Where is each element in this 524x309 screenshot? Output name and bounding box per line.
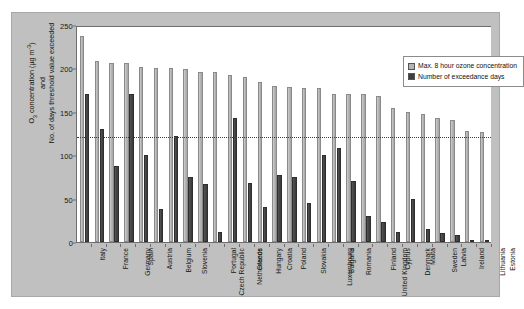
x-axis-tick-label: Belgium — [185, 248, 192, 273]
bar-max-ozone — [332, 94, 336, 242]
x-axis-tick-label: Slovenia — [201, 248, 208, 274]
bar-max-ozone — [213, 72, 217, 242]
bar-exceedance-days — [144, 155, 148, 242]
y-axis-tick-label: 150 — [60, 108, 73, 117]
bar-exceedance-days — [351, 181, 355, 242]
x-axis-tick-label: Lithuania — [499, 248, 506, 276]
x-axis-tick-mark — [491, 244, 492, 247]
bar-exceedance-days — [85, 94, 89, 242]
x-axis-tick-label: Latvia — [460, 248, 467, 266]
bar-max-ozone — [376, 96, 380, 242]
bar-exceedance-days — [129, 94, 133, 242]
x-axis-tick-mark — [195, 244, 196, 247]
bar-group — [359, 27, 374, 242]
bar-max-ozone — [139, 67, 143, 242]
bar-group — [240, 27, 255, 242]
bar-max-ozone — [317, 88, 321, 242]
bar-max-ozone — [272, 86, 276, 242]
x-axis: ItalyFranceGermanySpainAustriaBelgiumSlo… — [76, 245, 491, 297]
bar-group — [373, 27, 388, 242]
x-axis-tick-mark — [298, 244, 299, 247]
x-axis-tick-mark — [313, 244, 314, 247]
x-axis-tick-mark — [239, 244, 240, 247]
bar-max-ozone — [391, 108, 395, 242]
x-axis-tick-mark — [180, 244, 181, 247]
bar-group — [225, 27, 240, 242]
x-axis-tick-mark — [150, 244, 151, 247]
bar-group — [299, 27, 314, 242]
legend-item-max-ozone: Max. 8 hour ozone concentration — [408, 61, 517, 72]
x-axis-tick-mark — [358, 244, 359, 247]
bar-exceedance-days — [188, 177, 192, 242]
bar-exceedance-days — [337, 148, 341, 242]
bar-exceedance-days — [440, 233, 444, 242]
x-axis-tick-mark — [120, 244, 121, 247]
bar-max-ozone — [302, 88, 306, 243]
x-axis-tick-mark — [91, 244, 92, 247]
legend-swatch-dark-icon — [408, 73, 415, 80]
x-axis-tick-label: Portugal — [230, 248, 237, 273]
bar-exceedance-days — [381, 222, 385, 242]
bar-max-ozone — [480, 132, 484, 242]
y-axis: 050100150200250 — [12, 13, 76, 244]
bar-group — [285, 27, 300, 242]
bar-max-ozone — [183, 69, 187, 242]
x-axis-tick-mark — [328, 244, 329, 247]
x-axis-tick-label: Cyprus — [404, 248, 411, 270]
x-axis-tick-mark — [343, 244, 344, 247]
x-axis-tick-label: France — [122, 248, 129, 269]
x-axis-tick-label: Romania — [365, 248, 372, 275]
bar-max-ozone — [361, 94, 365, 242]
bar-exceedance-days — [366, 216, 370, 242]
bar-max-ozone — [154, 68, 158, 242]
x-axis-tick-label: Slovakia — [319, 248, 326, 274]
x-axis-tick-label: Bulgaria — [348, 248, 355, 273]
bar-exceedance-days — [485, 240, 489, 242]
x-axis-tick-mark — [417, 244, 418, 247]
x-axis-tick-label: Malta — [429, 248, 436, 265]
bar-group — [77, 27, 92, 242]
bar-max-ozone — [198, 72, 202, 242]
bar-max-ozone — [450, 120, 454, 242]
x-axis-tick-mark — [476, 244, 477, 247]
bar-exceedance-days — [114, 166, 118, 242]
bar-max-ozone — [80, 36, 84, 242]
bar-group — [166, 27, 181, 242]
bar-max-ozone — [109, 63, 113, 242]
bar-exceedance-days — [292, 177, 296, 242]
legend-swatch-light-icon — [408, 63, 415, 70]
bar-max-ozone — [465, 131, 469, 242]
bar-exceedance-days — [203, 184, 207, 242]
x-axis-tick-label: Finland — [390, 248, 397, 270]
x-axis-tick-label: Croatia — [286, 248, 293, 270]
bar-exceedance-days — [263, 207, 267, 242]
bar-exceedance-days — [174, 136, 178, 242]
bar-exceedance-days — [396, 232, 400, 242]
y-axis-tick-label: 200 — [60, 65, 73, 74]
bar-exceedance-days — [218, 232, 222, 242]
legend-label-max-ozone: Max. 8 hour ozone concentration — [418, 61, 517, 72]
x-axis-tick-label: Estonia — [509, 248, 516, 271]
legend-label-exceedance-days: Number of exceedance days — [418, 72, 505, 83]
bar-max-ozone — [95, 61, 99, 242]
bar-max-ozone — [287, 87, 291, 242]
x-axis-tick-label: Ireland — [477, 248, 484, 269]
bar-max-ozone — [243, 77, 247, 242]
x-axis-tick-mark — [165, 244, 166, 247]
bar-max-ozone — [124, 63, 128, 242]
bar-max-ozone — [421, 114, 425, 242]
bar-max-ozone — [258, 82, 262, 242]
bar-group — [151, 27, 166, 242]
x-axis-tick-label: Italy — [99, 248, 106, 261]
x-axis-tick-mark — [461, 244, 462, 247]
x-axis-tick-label: Greece — [256, 248, 263, 270]
bar-group — [388, 27, 403, 242]
x-axis-tick-label: Czech Republic — [237, 248, 244, 296]
x-axis-tick-label: Sweden — [451, 248, 458, 272]
bar-group — [181, 27, 196, 242]
bar-group — [270, 27, 285, 242]
bar-group — [329, 27, 344, 242]
x-axis-tick-mark — [387, 244, 388, 247]
bar-group — [136, 27, 151, 242]
bar-group — [255, 27, 270, 242]
